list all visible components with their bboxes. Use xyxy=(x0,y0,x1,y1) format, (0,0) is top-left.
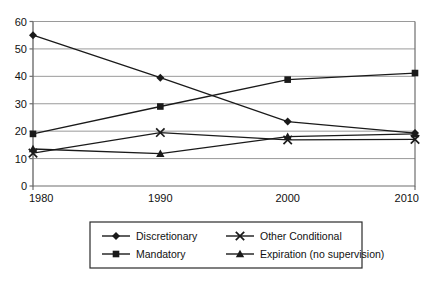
chart-canvas: 01020304050601980199020002010Discretiona… xyxy=(0,0,436,290)
series-discretionary xyxy=(29,31,419,137)
axes xyxy=(30,22,416,191)
legend-label-mandatory: Mandatory xyxy=(136,248,186,260)
x-tick-label-1990: 1990 xyxy=(148,192,172,204)
y-tick-label-20: 20 xyxy=(15,125,27,137)
series-expiration-no-supervision xyxy=(29,130,419,157)
legend-label-expiration-no-supervision: Expiration (no supervision) xyxy=(260,248,384,260)
gridlines xyxy=(33,22,415,187)
y-tick-label-30: 30 xyxy=(15,98,27,110)
chart-legend: DiscretionaryOther ConditionalMandatoryE… xyxy=(90,222,384,268)
x-tick-label-1980: 1980 xyxy=(29,192,53,204)
y-tick-label-0: 0 xyxy=(21,180,27,192)
line-chart: 01020304050601980199020002010Discretiona… xyxy=(0,0,436,290)
x-tick-label-2000: 2000 xyxy=(275,192,299,204)
point-1980-square-marker xyxy=(30,131,37,138)
x-tick-label-2010: 2010 xyxy=(395,192,419,204)
y-tick-label-50: 50 xyxy=(15,43,27,55)
legend-item-other-conditional[interactable]: Other Conditional xyxy=(226,230,342,242)
point-2000-diamond-marker xyxy=(284,118,292,126)
y-tick-label-40: 40 xyxy=(15,70,27,82)
x-axis-labels: 1980199020002010 xyxy=(29,192,419,204)
series-other-conditional xyxy=(29,128,419,157)
y-tick-label-60: 60 xyxy=(15,16,27,28)
legend-box xyxy=(90,222,362,268)
series-line xyxy=(33,35,415,133)
point-2000-square-marker xyxy=(284,76,291,83)
y-axis-labels: 0102030405060 xyxy=(15,16,27,193)
legend-mandatory-square-marker xyxy=(113,251,120,258)
legend-label-other-conditional: Other Conditional xyxy=(260,230,342,242)
point-1990-diamond-marker xyxy=(156,74,164,82)
legend-label-discretionary: Discretionary xyxy=(136,230,198,242)
point-1990-square-marker xyxy=(157,103,164,110)
y-tick-label-10: 10 xyxy=(15,153,27,165)
point-1980-diamond-marker xyxy=(29,31,37,39)
point-2010-square-marker xyxy=(412,70,419,77)
